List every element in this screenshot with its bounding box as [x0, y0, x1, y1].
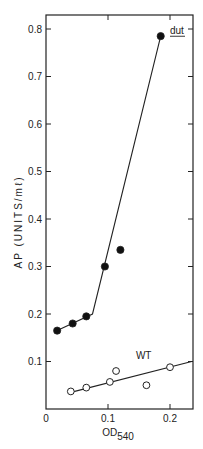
y-axis: 0.10.20.30.40.50.60.70.8	[28, 24, 193, 368]
dut-data-point	[69, 320, 76, 327]
dut-data-point	[101, 263, 108, 270]
fit-lines	[57, 36, 192, 392]
y-tick-label: 0.6	[28, 119, 42, 130]
y-axis-label: AP (UNITS/mℓ)	[13, 176, 24, 269]
data-points	[54, 33, 174, 395]
series-label-dut: dut	[170, 25, 184, 36]
dut-data-point	[157, 33, 164, 40]
y-tick-label: 0.1	[28, 356, 42, 367]
x-tick-label: 0.1	[101, 413, 115, 424]
y-tick-label: 0.3	[28, 261, 42, 272]
wt-data-point	[113, 368, 120, 375]
fit-line-dut	[57, 36, 161, 331]
y-tick-label: 0.5	[28, 166, 42, 177]
wt-data-point	[143, 382, 150, 389]
chart: 0.10.20.30.40.50.60.70.8 00.10.2 dutWT A…	[0, 0, 203, 449]
wt-data-point	[106, 379, 113, 386]
x-axis: 00.10.2	[43, 15, 177, 424]
plot-frame	[46, 15, 193, 409]
y-tick-label: 0.2	[28, 309, 42, 320]
annotations: dutWT	[136, 25, 185, 361]
dut-data-point	[117, 246, 124, 253]
y-tick-label: 0.4	[28, 214, 42, 225]
wt-data-point	[67, 388, 74, 395]
x-axis-label: OD540	[102, 427, 134, 442]
series-label-wt: WT	[136, 350, 152, 361]
wt-data-point	[167, 364, 174, 371]
x-tick-label: 0.2	[163, 413, 177, 424]
wt-data-point	[83, 384, 90, 391]
x-tick-label: 0	[43, 413, 49, 424]
y-tick-label: 0.8	[28, 24, 42, 35]
dut-data-point	[83, 313, 90, 320]
dut-data-point	[54, 327, 61, 334]
y-tick-label: 0.7	[28, 71, 42, 82]
